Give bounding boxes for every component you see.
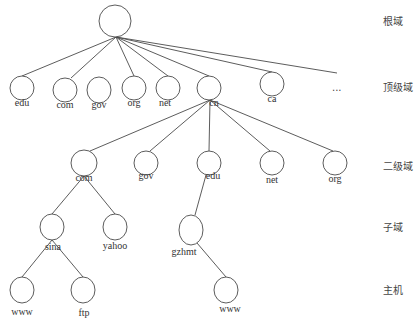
node-label-edu2: edu	[206, 170, 220, 182]
node-label-sina: sina	[45, 241, 61, 253]
domain-node-org2	[323, 151, 347, 175]
level-label: 子域	[383, 222, 403, 234]
node-label-ca: ca	[268, 93, 277, 105]
level-label: 根域	[383, 16, 403, 28]
tree-graphics	[0, 0, 415, 327]
domain-node-www1	[10, 277, 34, 303]
more-domains-ellipsis: ...	[332, 82, 342, 94]
node-label-com2: com	[75, 172, 92, 184]
tree-edge	[90, 100, 210, 151]
node-label-gzhmt: gzhmt	[172, 246, 197, 258]
node-label-net2: net	[266, 174, 278, 186]
node-label-gov2: gov	[139, 170, 154, 182]
domain-node-www2	[214, 277, 238, 303]
tree-edge	[210, 100, 333, 151]
domain-node-root	[99, 5, 131, 37]
node-label-com: com	[56, 99, 73, 111]
node-label-cn: cn	[209, 97, 218, 109]
node-label-www2: www	[219, 303, 241, 315]
tree-edge	[116, 37, 209, 76]
node-label-www1: www	[11, 306, 33, 318]
tree-edge	[71, 37, 116, 78]
domain-node-net2	[260, 151, 284, 175]
tree-edge	[22, 37, 116, 76]
node-label-ftp: ftp	[78, 307, 89, 319]
node-label-org2: org	[328, 173, 341, 185]
node-label-edu: edu	[15, 97, 29, 109]
domain-node-ftp	[71, 277, 95, 303]
tree-edge	[197, 243, 226, 277]
domain-node-gzhmt	[179, 215, 203, 245]
tree-edge	[116, 37, 134, 76]
level-label: 主机	[383, 285, 403, 297]
level-label: 顶级域	[383, 82, 413, 94]
dns-tree-diagram: educomgovorgnetcncacomgovedunetorgsinaya…	[0, 0, 415, 327]
domain-node-sina	[40, 214, 64, 240]
node-label-gov: gov	[92, 99, 107, 111]
node-label-net: net	[159, 97, 171, 109]
tree-edge	[195, 175, 206, 215]
tree-edge	[210, 100, 270, 151]
node-label-yahoo: yahoo	[103, 240, 127, 252]
level-label: 二级域	[383, 161, 413, 173]
node-label-org: org	[127, 97, 140, 109]
domain-node-yahoo	[103, 214, 127, 240]
tree-edge	[116, 37, 337, 73]
